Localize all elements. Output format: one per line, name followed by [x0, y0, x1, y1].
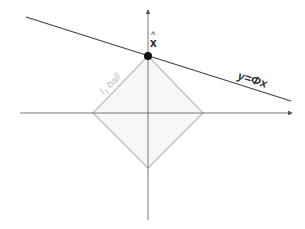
- l1-ball-diagram: ^ x y=Φx l1ball: [0, 0, 305, 229]
- point-label: x: [150, 36, 157, 50]
- line-label: y=Φx: [235, 68, 270, 91]
- solution-point: [144, 52, 152, 60]
